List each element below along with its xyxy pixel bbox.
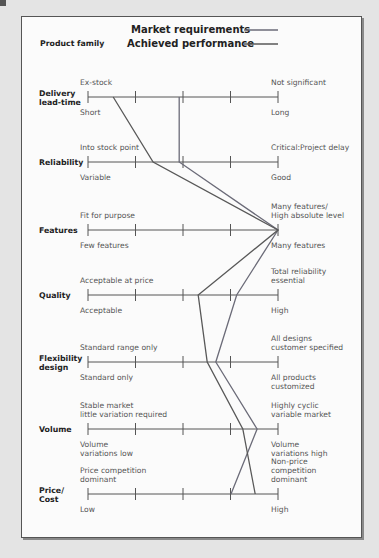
dimension-label: Reliability bbox=[39, 158, 83, 167]
scale-top-left-label: Standard range only bbox=[80, 343, 158, 352]
scale-top-right-label: competition bbox=[271, 466, 317, 475]
dimension-row: ReliabilityInto stock pointCritical:Proj… bbox=[39, 143, 350, 182]
scale-bottom-right-label: Good bbox=[271, 173, 291, 182]
dimension-label: Price/ bbox=[39, 486, 64, 495]
dimension-label: Quality bbox=[39, 291, 71, 300]
dimension-label: Features bbox=[39, 226, 78, 235]
dimension-label: Flexibility bbox=[39, 354, 82, 363]
dimension-label: lead-time bbox=[39, 98, 81, 107]
scale-top-right-label: Critical:Project delay bbox=[271, 143, 350, 152]
legend: Product family Market requirements Achie… bbox=[40, 24, 278, 49]
dimension-label: Cost bbox=[39, 495, 59, 504]
scale-bottom-left-label: Low bbox=[80, 505, 95, 514]
scale-bottom-left-label: Standard only bbox=[80, 373, 134, 382]
dimension-row: FlexibilitydesignStandard range onlyAll … bbox=[39, 334, 343, 391]
scale-bottom-right-label: Long bbox=[271, 108, 290, 117]
scale-bottom-right-label: Volume bbox=[271, 440, 300, 449]
dimension-row: VolumeStable marketlittle variation requ… bbox=[39, 401, 331, 458]
scale-bottom-left-label: Few features bbox=[80, 241, 129, 250]
scale-top-left-label: Ex-stock bbox=[80, 78, 113, 87]
scale-top-left-label: Stable market bbox=[80, 401, 133, 410]
scale-bottom-right-label: High bbox=[271, 505, 289, 514]
scale-top-right-label: All designs bbox=[271, 334, 312, 343]
dimension-row: QualityAcceptable at priceTotal reliabil… bbox=[39, 267, 327, 315]
dimension-rows: Deliverylead-timeEx-stockNot significant… bbox=[39, 78, 350, 514]
scale-bottom-right-label: Many features bbox=[271, 241, 325, 250]
dimension-row: FeaturesFit for purposeMany features/Hig… bbox=[39, 202, 344, 250]
scale-bottom-left-label: Variable bbox=[80, 173, 111, 182]
legend-market-label: Market requirements bbox=[131, 24, 250, 35]
dimension-label: design bbox=[39, 363, 68, 372]
dimension-row: Price/CostPrice competitiondominantNon-p… bbox=[39, 457, 317, 514]
scale-bottom-left-label: variations low bbox=[80, 449, 133, 458]
product-family-label: Product family bbox=[40, 39, 104, 48]
scale-top-right-label: variable market bbox=[271, 410, 331, 419]
profile-chart: Product family Market requirements Achie… bbox=[0, 0, 379, 558]
scale-top-right-label: dominant bbox=[271, 475, 307, 484]
scale-bottom-right-label: High bbox=[271, 306, 289, 315]
scale-top-right-label: High absolute level bbox=[271, 211, 344, 220]
scale-top-right-label: essential bbox=[271, 276, 305, 285]
dimension-label: Delivery bbox=[39, 89, 75, 98]
scale-bottom-left-label: Acceptable bbox=[80, 306, 122, 315]
scale-top-left-label: little variation required bbox=[80, 410, 167, 419]
legend-achieved-label: Achieved performance bbox=[127, 38, 254, 49]
scale-bottom-left-label: Volume bbox=[80, 440, 109, 449]
scale-top-right-label: Many features/ bbox=[271, 202, 328, 211]
scale-bottom-left-label: Short bbox=[80, 108, 100, 117]
scale-top-right-label: Not significant bbox=[271, 78, 326, 87]
scale-bottom-right-label: All products bbox=[271, 373, 316, 382]
scale-top-right-label: customer specified bbox=[271, 343, 343, 352]
scale-top-left-label: Into stock point bbox=[80, 143, 139, 152]
dimension-label: Volume bbox=[39, 425, 72, 434]
scale-top-left-label: Price competition bbox=[80, 466, 146, 475]
scale-top-right-label: Total reliability bbox=[270, 267, 327, 276]
scale-top-left-label: Fit for purpose bbox=[80, 211, 135, 220]
dimension-row: Deliverylead-timeEx-stockNot significant… bbox=[39, 78, 326, 117]
scale-top-right-label: Non-price bbox=[271, 457, 308, 466]
scale-top-left-label: dominant bbox=[80, 475, 116, 484]
scale-bottom-right-label: customized bbox=[271, 382, 315, 391]
scale-top-right-label: Highly cyclic bbox=[271, 401, 319, 410]
scale-top-left-label: Acceptable at price bbox=[80, 276, 154, 285]
